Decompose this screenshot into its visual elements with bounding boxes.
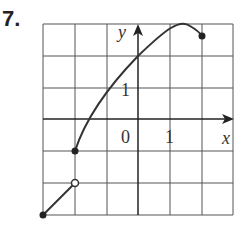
closed-point: [199, 33, 206, 40]
closed-point: [40, 212, 47, 219]
x-tick-1: 1: [165, 127, 174, 147]
line-segment: [43, 183, 75, 215]
x-axis-label: x: [221, 128, 230, 148]
origin-label: 0: [121, 127, 130, 147]
y-axis-label: y: [116, 22, 126, 42]
function-graph: y x 0 1 1: [0, 0, 243, 226]
open-point: [72, 180, 79, 187]
y-tick-1: 1: [121, 80, 130, 100]
closed-point: [72, 148, 79, 155]
